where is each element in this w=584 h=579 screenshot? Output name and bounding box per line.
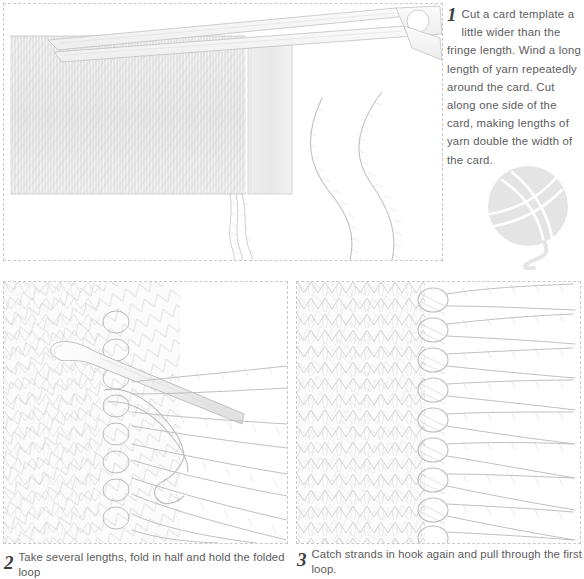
knitted-fabric xyxy=(297,282,425,543)
step-2-caption: 2 Take several lengths, fold in half and… xyxy=(4,550,290,579)
step-2-text: Take several lengths, fold in half and h… xyxy=(19,550,291,579)
step-1-text-block: 1 Cut a card template a little wider tha… xyxy=(447,4,583,168)
step-3-text: Catch strands in hook again and pull thr… xyxy=(312,547,584,576)
tassel-twist-hatch xyxy=(463,284,563,520)
knitted-fabric xyxy=(4,282,180,543)
step-2-numeral: 2 xyxy=(4,553,14,572)
step-1-artwork xyxy=(4,4,442,260)
free-yarn-twist-hatch xyxy=(309,102,402,258)
cut-yarn-strands xyxy=(230,194,252,260)
step-1-illustration-panel xyxy=(3,3,443,261)
step-1-numeral: 1 xyxy=(447,5,457,24)
cut-yarn-strand-twist xyxy=(230,202,254,255)
card-template xyxy=(248,42,292,194)
step-3-caption: 3 Catch strands in hook again and pull t… xyxy=(297,547,583,576)
yarn-ball-icon xyxy=(482,162,582,270)
step-1-text: Cut a card template a little wider than … xyxy=(447,8,581,166)
step-2-illustration-panel xyxy=(3,281,288,544)
step-3-illustration-panel xyxy=(296,281,581,544)
step-2-artwork xyxy=(4,282,287,543)
step-3-numeral: 3 xyxy=(297,550,307,569)
step-3-artwork xyxy=(297,282,580,543)
free-yarn-lengths xyxy=(311,92,394,260)
wound-yarn-block xyxy=(10,36,246,194)
